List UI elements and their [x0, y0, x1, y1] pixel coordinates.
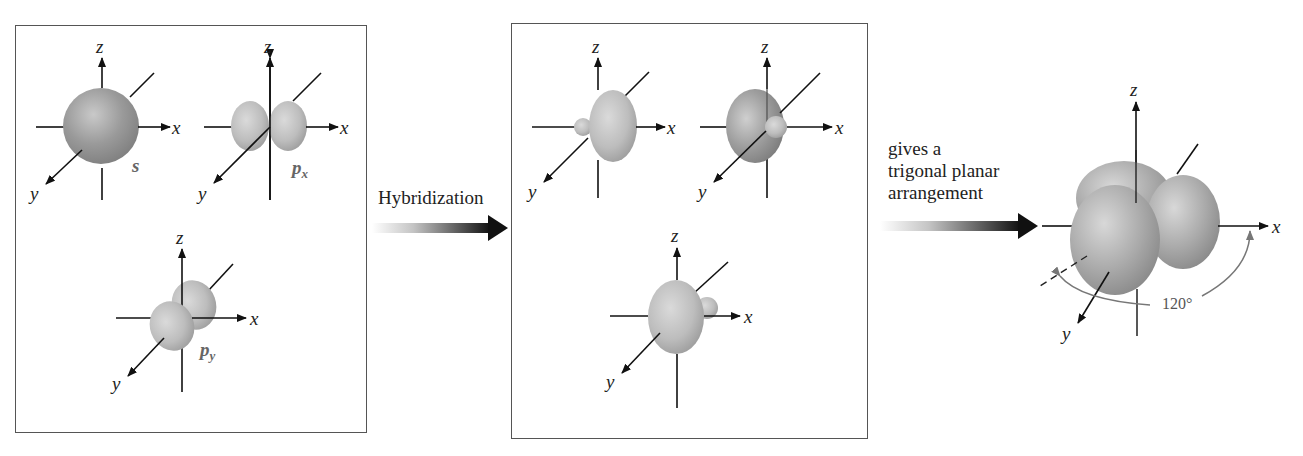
py-orbital-label: py	[198, 339, 216, 363]
trigonal-planar-result: 120° z x y	[1040, 79, 1281, 344]
sp2-orbital-b-diagram: z x y	[696, 36, 844, 202]
z-axis-label: z	[263, 36, 272, 57]
x-axis-label: x	[834, 117, 844, 138]
px-orbital-diagram: z x y px	[196, 36, 349, 204]
py-orbital-diagram: z x y py	[110, 227, 259, 394]
z-axis-label: z	[591, 36, 600, 57]
z-axis-label: z	[1129, 79, 1138, 100]
angle-label: 120°	[1162, 295, 1192, 312]
sp2-orbital-a-diagram: z x y	[526, 36, 676, 202]
x-axis-label: x	[743, 306, 753, 327]
gives-arrow	[880, 213, 1038, 239]
y-axis-label: y	[196, 183, 207, 204]
hybridization-arrow	[372, 215, 508, 241]
x-axis-label: x	[171, 117, 181, 138]
z-axis-label: z	[95, 36, 104, 57]
y-axis-label: y	[1060, 323, 1071, 344]
x-axis-label: x	[339, 117, 349, 138]
s-orbital-diagram: z x y s	[28, 36, 181, 204]
s-orbital-label: s	[131, 155, 139, 176]
y-axis-label: y	[110, 373, 121, 394]
y-axis-label: y	[28, 183, 39, 204]
z-axis-label: z	[760, 36, 769, 57]
sp2-orbital-c-diagram: z x y	[604, 225, 753, 408]
x-axis-label: x	[249, 308, 259, 329]
y-axis-label: y	[604, 371, 615, 392]
y-axis-label: y	[696, 181, 707, 202]
front-hybrid-lobe	[1070, 185, 1160, 295]
z-axis-label: z	[670, 225, 679, 246]
y-axis-label: y	[526, 181, 537, 202]
px-orbital-label: px	[290, 157, 309, 181]
x-axis-label: x	[666, 117, 676, 138]
s-orbital-sphere	[63, 88, 139, 164]
diagram-canvas: z x y s z x y px z x y py	[0, 0, 1303, 456]
z-axis-label: z	[175, 227, 184, 248]
x-axis-label: x	[1271, 216, 1281, 237]
